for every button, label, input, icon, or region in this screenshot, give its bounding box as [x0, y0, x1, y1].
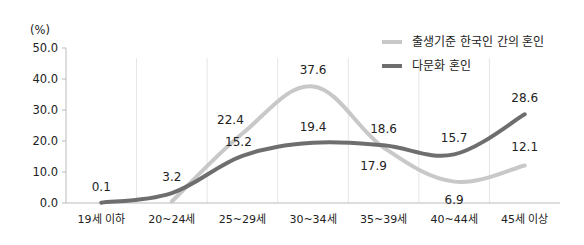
line-chart: (%) 0.010.020.030.040.050.0 19세 이하20~24세…: [0, 0, 584, 245]
data-label: 18.6: [370, 122, 397, 136]
x-tick-label: 20~24세: [148, 213, 195, 226]
x-tick-label: 30~34세: [289, 213, 336, 226]
data-label: 15.2: [225, 135, 252, 149]
y-axis-unit-label: (%): [30, 23, 50, 37]
data-label: 0.1: [92, 180, 111, 194]
x-tick-label: 19세 이하: [78, 212, 126, 226]
legend: 출생기준 한국인 간의 혼인다문화 혼인: [382, 35, 544, 73]
y-tick-label: 0.0: [40, 196, 58, 210]
data-label: 15.7: [441, 131, 468, 145]
data-label: 19.4: [300, 120, 327, 134]
data-label: 28.6: [511, 91, 538, 105]
data-label: 17.9: [360, 159, 387, 173]
x-tick-label: 40~44세: [431, 213, 478, 226]
data-label: 3.2: [162, 170, 181, 184]
data-label: 37.6: [300, 63, 327, 77]
data-label: 6.9: [445, 193, 464, 207]
x-tick-label: 35~39세: [360, 213, 407, 226]
data-label: 12.1: [511, 140, 538, 154]
legend-label: 다문화 혼인: [412, 59, 471, 73]
x-tick-labels: 19세 이하20~24세25~29세30~34세35~39세40~44세45세 …: [78, 212, 549, 226]
y-tick-label: 50.0: [32, 41, 58, 55]
y-tick-label: 20.0: [32, 134, 58, 148]
x-tick-label: 45세 이상: [501, 213, 549, 226]
y-tick-label: 10.0: [32, 165, 58, 179]
y-tick-label: 30.0: [32, 103, 58, 117]
legend-label: 출생기준 한국인 간의 혼인: [412, 35, 544, 49]
y-tick-labels: 0.010.020.030.040.050.0: [32, 41, 66, 210]
x-tick-label: 25~29세: [219, 213, 266, 226]
data-label: 22.4: [217, 113, 244, 127]
y-tick-label: 40.0: [32, 72, 58, 86]
